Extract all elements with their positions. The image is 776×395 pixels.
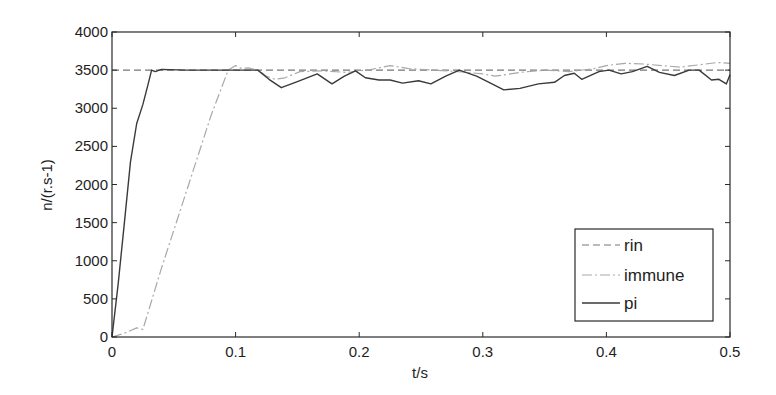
y-tick-label: 3000 — [75, 99, 108, 116]
x-tick-label: 0.3 — [472, 343, 493, 360]
x-tick-label: 0.4 — [596, 343, 617, 360]
x-tick-label: 0.1 — [225, 343, 246, 360]
y-axis-label: n/(r.s-1) — [38, 159, 55, 211]
y-tick-label: 2500 — [75, 137, 108, 154]
x-axis-label: t/s — [412, 364, 428, 381]
y-tick-label: 1000 — [75, 252, 108, 269]
legend-label: rin — [624, 236, 643, 255]
y-tick-label: 2000 — [75, 176, 108, 193]
x-tick-label: 0 — [108, 343, 116, 360]
legend-label: pi — [624, 294, 637, 313]
y-tick-label: 1500 — [75, 214, 108, 231]
legend-label: immune — [624, 266, 684, 285]
y-tick-label: 0 — [100, 328, 108, 345]
legend: rin immune pi — [575, 229, 713, 321]
x-tick-label: 0.5 — [720, 343, 741, 360]
y-tick-label: 4000 — [75, 23, 108, 40]
y-tick-label: 3500 — [75, 61, 108, 78]
x-tick-label: 0.2 — [349, 343, 370, 360]
y-tick-label: 500 — [83, 290, 108, 307]
line-chart: 00.10.20.30.40.5050010001500200025003000… — [0, 0, 776, 395]
